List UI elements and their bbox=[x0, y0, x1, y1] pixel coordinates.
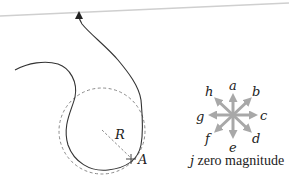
arrow-f bbox=[217, 115, 233, 130]
direction-compass bbox=[212, 97, 254, 135]
arrow-d bbox=[233, 115, 249, 130]
compass-label-c: c bbox=[260, 108, 268, 123]
caption-text: zero magnitude bbox=[194, 153, 284, 168]
compass-label-f: f bbox=[204, 131, 212, 146]
point-a-marker bbox=[126, 154, 136, 164]
point-a-label: A bbox=[137, 152, 147, 167]
compass-label-b: b bbox=[252, 84, 260, 99]
arrow-b bbox=[233, 100, 249, 115]
compass-label-d: d bbox=[252, 131, 260, 146]
trajectory-path bbox=[15, 15, 143, 170]
compass-label-g: g bbox=[196, 109, 204, 124]
radius-label: R bbox=[114, 127, 125, 142]
compass-label-a: a bbox=[229, 78, 237, 93]
arrow-h bbox=[217, 100, 233, 115]
diagram-canvas: R A a b c d e f g h j zero magnitude bbox=[0, 0, 289, 183]
top-boundary-line bbox=[0, 3, 289, 16]
caption-letter-j: j bbox=[187, 153, 194, 168]
compass-caption: j zero magnitude bbox=[187, 153, 284, 168]
compass-label-h: h bbox=[205, 84, 213, 99]
